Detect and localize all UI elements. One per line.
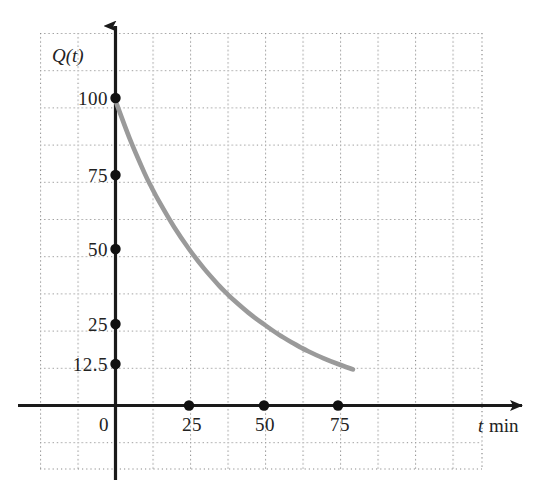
y-axis-label: Q(t) — [52, 45, 84, 67]
x-tick-label-0: 0 — [99, 414, 109, 435]
y-tick-label-100: 100 — [78, 88, 108, 109]
exponential-decay-chart: 100 75 50 25 12.5 0 25 50 75 Q(t) t min — [0, 0, 545, 489]
y-tick-label-12.5: 12.5 — [73, 354, 108, 375]
chart-canvas: 100 75 50 25 12.5 0 25 50 75 Q(t) t min — [0, 0, 545, 489]
x-point-50 — [259, 400, 269, 410]
x-axis-label-unit: min — [489, 415, 519, 436]
y-tick-label-50: 50 — [88, 239, 108, 260]
y-tick-label-75: 75 — [88, 165, 108, 186]
y-point-75 — [110, 170, 120, 180]
x-tick-label-75: 75 — [330, 414, 350, 435]
x-tick-label-25: 25 — [182, 414, 202, 435]
y-point-25 — [110, 319, 120, 329]
x-point-75 — [333, 400, 343, 410]
x-axis-label-symbol: t — [478, 415, 484, 436]
y-point-12.5 — [110, 359, 120, 369]
x-tick-label-50: 50 — [255, 414, 275, 435]
y-point-100 — [110, 93, 120, 103]
x-point-25 — [184, 400, 194, 410]
y-tick-label-25: 25 — [88, 314, 108, 335]
y-point-50 — [110, 244, 120, 254]
